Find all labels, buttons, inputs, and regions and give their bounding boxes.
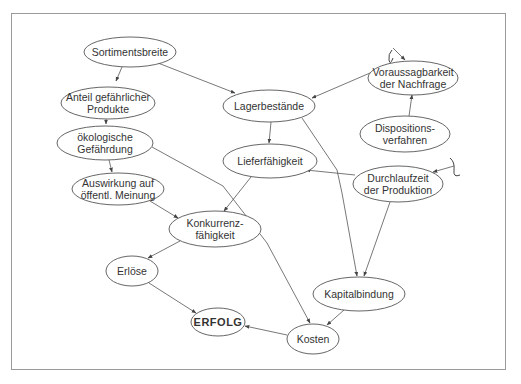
node-disposition: Dispositions-verfahren <box>360 116 450 152</box>
node-label: ERFOLG <box>194 316 243 328</box>
node-erfolg: ERFOLG <box>191 308 245 336</box>
node-label: verfahren <box>383 134 428 146</box>
node-oekologisch: ökologischeGefährdung <box>57 126 153 160</box>
edge-durchlauf-to-liefer <box>306 170 355 175</box>
node-label: Erlöse <box>117 265 147 277</box>
node-label: Lieferfähigkeit <box>237 155 302 167</box>
node-auswirkung: Auswirkung auföffentl. Meinung <box>72 173 164 205</box>
node-label: der Nachfrage <box>380 78 447 90</box>
node-kosten: Kosten <box>287 324 339 354</box>
edge-disposition-to-voraussag <box>409 95 412 116</box>
edge-kosten-to-erfolg <box>245 326 287 335</box>
node-label: Dispositions- <box>375 122 436 134</box>
edge-auswirkung-to-konkurrenz <box>150 201 178 218</box>
node-label: Lagerbestände <box>234 100 304 112</box>
edge-sortimentsbreite-to-lager <box>158 63 235 93</box>
node-durchlauf: Durchlaufzeitder Produktion <box>353 166 443 202</box>
external-input-edge-to-voraussag <box>393 48 405 60</box>
node-label: Kosten <box>297 333 330 345</box>
edge-erloese-to-erfolg <box>149 283 196 313</box>
cause-effect-diagram: SortimentsbreiteAnteil gefährlicherProdu… <box>0 0 521 384</box>
edge-sortimentsbreite-to-anteil <box>116 67 122 81</box>
node-label: der Produktion <box>364 184 432 196</box>
node-label: Produkte <box>87 103 129 115</box>
edge-lager-to-kapital <box>302 118 357 276</box>
node-label: Anteil gefährlicher <box>66 91 151 103</box>
edge-liefer-to-konkurrenz <box>224 177 251 211</box>
node-kapital: Kapitalbindung <box>313 277 405 311</box>
edge-lager-to-liefer <box>269 122 271 143</box>
node-liefer: Lieferfähigkeit <box>223 144 317 178</box>
node-label: ökologische <box>77 131 133 143</box>
node-label: Durchlaufzeit <box>367 172 428 184</box>
node-label: Voraussagbarkeit <box>372 66 453 78</box>
edge-durchlauf-to-kapital <box>364 202 390 276</box>
node-lager: Lagerbestände <box>223 90 315 122</box>
node-label: Kapitalbindung <box>324 288 394 300</box>
nodes-layer: SortimentsbreiteAnteil gefährlicherProdu… <box>57 37 458 354</box>
external-input-edge-to-durchlauf <box>433 166 454 172</box>
edge-oekologisch-to-auswirkung <box>109 160 112 172</box>
edge-kapital-to-kosten <box>327 310 344 325</box>
node-voraussag: Voraussagbarkeitder Nachfrage <box>368 61 458 95</box>
node-label: Gefährdung <box>77 143 133 155</box>
node-sortimentsbreite: Sortimentsbreite <box>84 37 176 67</box>
edge-konkurrenz-to-erloese <box>148 241 180 258</box>
edge-voraussag-to-lager <box>312 73 370 98</box>
node-erloese: Erlöse <box>106 256 158 286</box>
node-anteil: Anteil gefährlicherProdukte <box>61 87 155 119</box>
node-label: Auswirkung auf <box>82 177 154 189</box>
external-influence-squiggle-icon <box>389 50 393 63</box>
node-label: Sortimentsbreite <box>92 46 169 58</box>
node-label: öffentl. Meinung <box>81 189 156 201</box>
node-label: Konkurrenz- <box>186 217 244 229</box>
node-label: fähigkeit <box>195 229 234 241</box>
node-konkurrenz: Konkurrenz-fähigkeit <box>169 211 261 247</box>
